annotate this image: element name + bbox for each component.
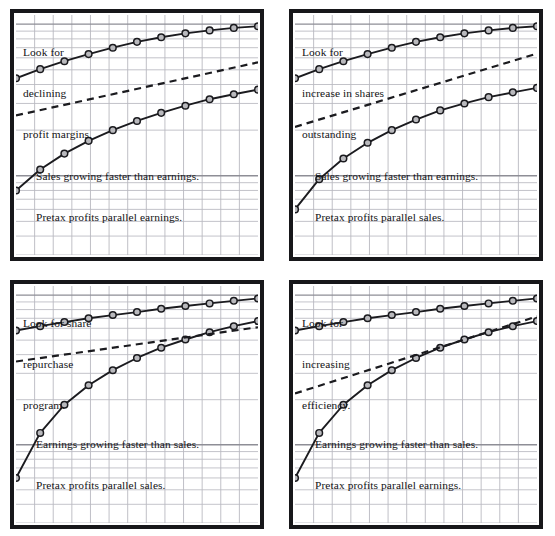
panel-frame: Look for share repurchase program. Earni… [10,280,264,529]
figure-root: Look for declining profit margins. Sales… [0,0,555,536]
chart-svg-top-right [295,15,537,255]
panel-frame: Look for increase in shares outstanding … [289,9,543,261]
panel-frame: Look for declining profit margins. Sales… [10,9,264,261]
panel-top-right: Look for increase in shares outstanding … [276,0,555,268]
panel-bottom-left: Look for share repurchase program. Earni… [0,268,276,536]
panel-grid: Look for declining profit margins. Sales… [0,0,555,536]
chart-svg-bottom-right [295,286,537,523]
plot-area-top-left [16,15,258,255]
panel-top-left: Look for declining profit margins. Sales… [0,0,276,268]
plot-area-top-right [295,15,537,255]
panel-bottom-right: Look for increasing efficiency. Earnings… [276,268,555,536]
plot-area-bottom-left [16,286,258,523]
chart-svg-bottom-left [16,286,258,523]
plot-area-bottom-right [295,286,537,523]
chart-svg-top-left [16,15,258,255]
panel-frame: Look for increasing efficiency. Earnings… [289,280,543,529]
